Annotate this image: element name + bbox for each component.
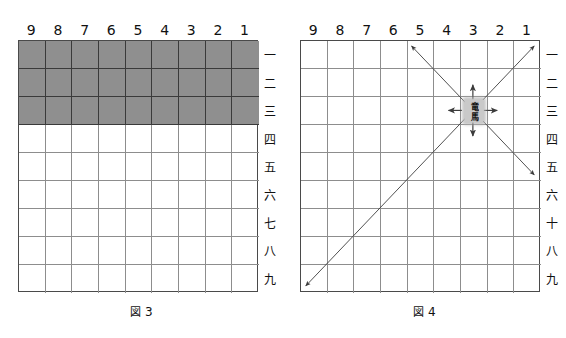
board-cell[interactable] bbox=[328, 97, 355, 125]
board-cell[interactable] bbox=[126, 209, 153, 237]
board-cell[interactable] bbox=[434, 125, 461, 153]
board-cell[interactable] bbox=[232, 69, 259, 97]
board-cell[interactable] bbox=[126, 69, 153, 97]
board-cell[interactable] bbox=[408, 181, 435, 209]
board-cell[interactable] bbox=[514, 41, 541, 69]
board-cell[interactable] bbox=[232, 209, 259, 237]
board-cell[interactable] bbox=[301, 125, 328, 153]
board-cell[interactable] bbox=[434, 97, 461, 125]
board-cell[interactable] bbox=[206, 69, 233, 97]
board-cell[interactable] bbox=[152, 97, 179, 125]
board-cell[interactable] bbox=[434, 209, 461, 237]
board-cell[interactable] bbox=[434, 265, 461, 293]
board-cell[interactable] bbox=[99, 237, 126, 265]
board-cell[interactable] bbox=[179, 237, 206, 265]
board-cell[interactable] bbox=[179, 209, 206, 237]
board-cell[interactable] bbox=[514, 237, 541, 265]
board-cell[interactable] bbox=[354, 209, 381, 237]
board-cell[interactable] bbox=[19, 97, 46, 125]
board-cell[interactable] bbox=[488, 97, 515, 125]
board-cell[interactable] bbox=[514, 181, 541, 209]
board-cell[interactable] bbox=[434, 237, 461, 265]
board-cell[interactable] bbox=[434, 41, 461, 69]
board-cell[interactable] bbox=[328, 237, 355, 265]
board-cell[interactable] bbox=[514, 153, 541, 181]
board-cell[interactable] bbox=[232, 153, 259, 181]
board-cell[interactable] bbox=[19, 125, 46, 153]
board-cell[interactable] bbox=[19, 209, 46, 237]
board-cell[interactable] bbox=[19, 265, 46, 293]
board-cell[interactable] bbox=[381, 265, 408, 293]
board-cell[interactable] bbox=[206, 97, 233, 125]
board-cell[interactable] bbox=[354, 265, 381, 293]
board-cell[interactable] bbox=[72, 237, 99, 265]
board-cell[interactable] bbox=[354, 237, 381, 265]
board-cell[interactable] bbox=[99, 153, 126, 181]
board-cell[interactable] bbox=[381, 237, 408, 265]
board-cell[interactable] bbox=[46, 153, 73, 181]
board-cell[interactable] bbox=[46, 69, 73, 97]
board-cell[interactable] bbox=[408, 237, 435, 265]
board-cell[interactable] bbox=[301, 153, 328, 181]
board-cell[interactable] bbox=[46, 237, 73, 265]
board-cell[interactable] bbox=[99, 97, 126, 125]
board-cell[interactable] bbox=[179, 153, 206, 181]
board-cell[interactable] bbox=[354, 41, 381, 69]
board-cell[interactable] bbox=[152, 209, 179, 237]
board-cell[interactable] bbox=[328, 181, 355, 209]
board-cell[interactable] bbox=[488, 181, 515, 209]
board-cell[interactable] bbox=[408, 209, 435, 237]
board-cell[interactable] bbox=[461, 153, 488, 181]
board-cell[interactable] bbox=[328, 41, 355, 69]
board-cell[interactable] bbox=[179, 41, 206, 69]
board-cell[interactable] bbox=[206, 153, 233, 181]
board-cell[interactable] bbox=[514, 97, 541, 125]
board-cell[interactable] bbox=[408, 125, 435, 153]
board-cell[interactable] bbox=[152, 237, 179, 265]
board-cell[interactable] bbox=[232, 181, 259, 209]
board-cell[interactable] bbox=[126, 237, 153, 265]
board-cell[interactable] bbox=[408, 265, 435, 293]
figure-3-board[interactable] bbox=[18, 40, 258, 292]
board-cell[interactable] bbox=[152, 125, 179, 153]
board-cell[interactable] bbox=[72, 265, 99, 293]
board-cell[interactable] bbox=[461, 69, 488, 97]
board-cell[interactable] bbox=[99, 125, 126, 153]
board-cell[interactable] bbox=[206, 237, 233, 265]
board-cell[interactable] bbox=[488, 41, 515, 69]
board-cell[interactable] bbox=[72, 153, 99, 181]
board-cell[interactable] bbox=[434, 181, 461, 209]
board-cell[interactable] bbox=[232, 41, 259, 69]
board-cell[interactable] bbox=[381, 153, 408, 181]
board-cell[interactable] bbox=[461, 265, 488, 293]
board-cell[interactable] bbox=[206, 125, 233, 153]
board-cell[interactable] bbox=[72, 97, 99, 125]
board-cell[interactable] bbox=[514, 209, 541, 237]
board-cell[interactable] bbox=[301, 209, 328, 237]
board-cell[interactable] bbox=[328, 209, 355, 237]
board-cell[interactable] bbox=[19, 181, 46, 209]
board-cell[interactable] bbox=[19, 153, 46, 181]
board-cell[interactable] bbox=[328, 125, 355, 153]
board-cell[interactable] bbox=[72, 181, 99, 209]
board-cell[interactable] bbox=[488, 69, 515, 97]
board-cell[interactable] bbox=[206, 41, 233, 69]
board-cell[interactable] bbox=[488, 125, 515, 153]
board-cell[interactable] bbox=[179, 125, 206, 153]
board-cell[interactable] bbox=[46, 97, 73, 125]
board-cell[interactable] bbox=[99, 181, 126, 209]
board-cell[interactable] bbox=[72, 125, 99, 153]
board-cell[interactable] bbox=[179, 97, 206, 125]
board-cell[interactable] bbox=[46, 209, 73, 237]
board-cell[interactable] bbox=[461, 181, 488, 209]
board-cell[interactable] bbox=[354, 97, 381, 125]
board-cell[interactable] bbox=[461, 237, 488, 265]
board-cell[interactable] bbox=[301, 41, 328, 69]
board-cell[interactable] bbox=[408, 69, 435, 97]
board-cell[interactable] bbox=[232, 125, 259, 153]
board-cell[interactable] bbox=[126, 97, 153, 125]
board-cell[interactable] bbox=[232, 237, 259, 265]
board-cell[interactable] bbox=[408, 153, 435, 181]
board-cell[interactable] bbox=[126, 265, 153, 293]
board-cell[interactable] bbox=[408, 41, 435, 69]
